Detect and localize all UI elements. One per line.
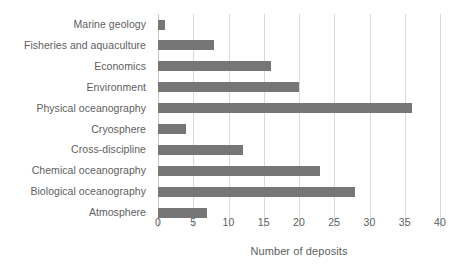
plot-area: [158, 14, 440, 223]
bar[interactable]: [158, 82, 299, 92]
x-tick-label: 25: [314, 216, 354, 228]
x-tick-label: 40: [420, 216, 460, 228]
bar[interactable]: [158, 145, 243, 155]
x-tick-label: 20: [279, 216, 319, 228]
bar-row: [158, 35, 440, 56]
x-axis-title: Number of deposits: [158, 245, 440, 257]
category-label: Biological oceanography: [0, 181, 152, 202]
bar-row: [158, 181, 440, 202]
bar[interactable]: [158, 40, 214, 50]
category-label: Chemical oceanography: [0, 160, 152, 181]
x-tick-label: 5: [173, 216, 213, 228]
category-label: Fisheries and aquaculture: [0, 35, 152, 56]
category-label: Atmosphere: [0, 202, 152, 223]
bar-row: [158, 139, 440, 160]
bar-row: [158, 160, 440, 181]
bar[interactable]: [158, 166, 320, 176]
bar-row: [158, 119, 440, 140]
category-label: Environment: [0, 77, 152, 98]
category-axis-labels: Marine geologyFisheries and aquacultureE…: [0, 14, 152, 223]
bar-row: [158, 77, 440, 98]
bar[interactable]: [158, 20, 165, 30]
category-label: Economics: [0, 56, 152, 77]
bar-row: [158, 56, 440, 77]
x-tick-label: 15: [244, 216, 284, 228]
x-tick-label: 35: [385, 216, 425, 228]
bar[interactable]: [158, 124, 186, 134]
bar[interactable]: [158, 103, 412, 113]
category-label: Cryosphere: [0, 119, 152, 140]
bar[interactable]: [158, 61, 271, 71]
x-tick-label: 0: [138, 216, 178, 228]
x-tick-label: 30: [350, 216, 390, 228]
bar-row: [158, 14, 440, 35]
category-label: Physical oceanography: [0, 98, 152, 119]
bar-row: [158, 98, 440, 119]
category-label: Cross-discipline: [0, 139, 152, 160]
bar[interactable]: [158, 187, 355, 197]
bar-chart: Marine geologyFisheries and aquacultureE…: [0, 0, 470, 275]
gridline-40: [440, 14, 441, 223]
category-label: Marine geology: [0, 14, 152, 35]
x-tick-label: 10: [209, 216, 249, 228]
